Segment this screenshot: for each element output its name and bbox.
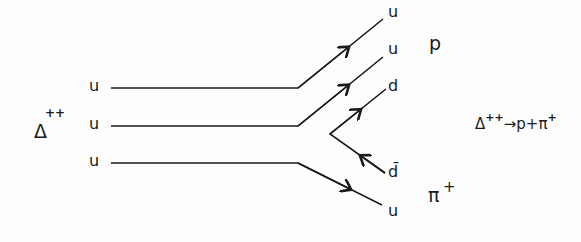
product-proton-label: p <box>429 34 441 53</box>
reaction-lhs-charge: ++ <box>485 111 503 124</box>
final-quark-label: d <box>388 78 398 94</box>
reaction-rhs-proton: p <box>516 115 526 133</box>
reaction-rhs-pion-charge: + <box>547 111 556 124</box>
initial-quark-label: u <box>89 116 99 132</box>
final-antiquark-label: d̄ <box>388 164 398 180</box>
initial-quark-label: u <box>89 153 99 169</box>
reaction-arrow: → <box>504 115 517 133</box>
final-quark-label: u <box>388 203 398 219</box>
reaction-lhs: Δ <box>475 115 485 133</box>
final-quark-label: u <box>388 41 398 57</box>
final-quark-label: u <box>388 4 398 20</box>
diagram-canvas: Δ ++ u u u u u d d̄ u p π + Δ++→p+π+ <box>0 0 581 242</box>
quark-line-u-top <box>111 19 383 88</box>
reaction-equation: Δ++→p+π+ <box>475 112 557 132</box>
product-pion-charge: + <box>443 180 456 195</box>
initial-particle-symbol: Δ <box>34 122 47 141</box>
quark-line-u-middle <box>111 57 383 126</box>
product-pion-label: π <box>428 186 439 205</box>
quark-pair-d-dbar <box>330 89 386 173</box>
quark-line-u-bottom <box>111 163 382 205</box>
initial-quark-label: u <box>89 78 99 94</box>
reaction-plus: + <box>526 115 539 133</box>
initial-particle-charge: ++ <box>45 107 65 119</box>
